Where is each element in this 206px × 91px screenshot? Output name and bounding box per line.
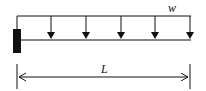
load-label: w [168, 1, 176, 15]
distributed-load [17, 16, 194, 39]
load-arrow [151, 16, 159, 39]
load-arrow [82, 16, 90, 39]
load-arrow [186, 16, 194, 39]
load-arrow [47, 16, 55, 39]
length-label: L [100, 62, 108, 76]
cantilever-diagram: w L [0, 0, 206, 91]
load-arrow [117, 16, 125, 39]
fixed-support [13, 29, 21, 53]
